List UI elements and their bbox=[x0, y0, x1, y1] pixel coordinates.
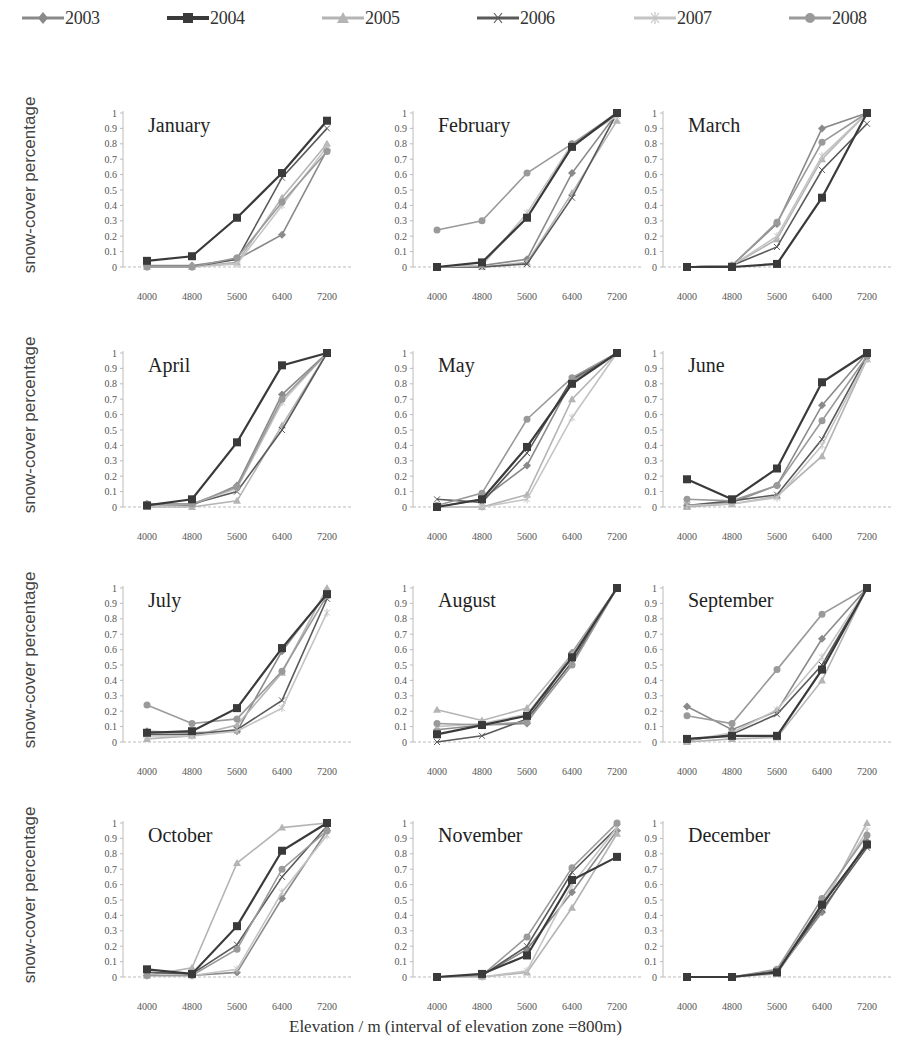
diamond-marker-icon bbox=[683, 703, 691, 711]
square-marker-icon bbox=[323, 819, 331, 827]
circle-marker-icon bbox=[434, 720, 441, 727]
y-tick-label: 1 bbox=[652, 108, 657, 119]
square-marker-icon bbox=[683, 973, 691, 981]
panel-title: February bbox=[438, 114, 510, 137]
y-tick-label: 0 bbox=[652, 737, 657, 748]
x-tick-label: 6400 bbox=[272, 291, 292, 302]
series-line-2008 bbox=[687, 113, 867, 267]
y-tick-label: 0 bbox=[652, 502, 657, 513]
x-tick-label: 4800 bbox=[472, 1001, 492, 1012]
legend-label: 2007 bbox=[677, 8, 712, 29]
y-tick-label: 0.6 bbox=[395, 879, 408, 890]
y-tick-label: 0.1 bbox=[105, 486, 118, 497]
square-marker-icon bbox=[433, 503, 441, 511]
y-tick-label: 0.5 bbox=[645, 660, 658, 671]
y-tick-label: 0.7 bbox=[645, 629, 658, 640]
circle-marker-icon bbox=[569, 864, 576, 871]
square-marker-icon bbox=[568, 653, 576, 661]
y-axis-label-row-4: snow-cover percentage bbox=[0, 780, 60, 1010]
y-tick-label: 0.2 bbox=[395, 706, 408, 717]
y-tick-label: 0.6 bbox=[105, 644, 118, 655]
series-line-2003 bbox=[687, 841, 867, 977]
y-tick-label: 0.1 bbox=[645, 246, 658, 257]
panel-title: April bbox=[148, 354, 191, 377]
legend-label: 2005 bbox=[365, 8, 400, 29]
circle-marker-icon bbox=[234, 483, 241, 490]
x-marker-icon bbox=[324, 125, 330, 131]
x-tick-label: 4000 bbox=[427, 1001, 447, 1012]
y-tick-label: 0.6 bbox=[645, 409, 658, 420]
square-marker-icon bbox=[523, 214, 531, 222]
circle-marker-icon bbox=[434, 227, 441, 234]
series-line-2006 bbox=[147, 599, 327, 735]
circle-marker-icon bbox=[234, 254, 241, 261]
square-marker-icon bbox=[523, 951, 531, 959]
x-tick-label: 6400 bbox=[272, 766, 292, 777]
legend-label: 2008 bbox=[832, 8, 867, 29]
y-tick-label: 0.3 bbox=[645, 455, 658, 466]
y-tick-label: 0.4 bbox=[395, 675, 408, 686]
triangle-marker-icon bbox=[568, 904, 576, 911]
circle-marker-icon bbox=[729, 720, 736, 727]
x-tick-label: 6400 bbox=[562, 1001, 582, 1012]
y-tick-label: 0.9 bbox=[645, 123, 658, 134]
x-tick-label: 4000 bbox=[677, 291, 697, 302]
circle-marker-icon bbox=[324, 827, 331, 834]
panel-title: May bbox=[438, 354, 475, 377]
y-tick-label: 0 bbox=[112, 972, 117, 983]
y-tick-label: 0.9 bbox=[645, 363, 658, 374]
series-line-2007 bbox=[687, 113, 867, 267]
star-marker-icon bbox=[279, 888, 285, 896]
x-tick-label: 5600 bbox=[767, 1001, 787, 1012]
y-axis-label-row-2: snow-cover percentage bbox=[0, 310, 60, 540]
y-tick-label: 0.9 bbox=[395, 363, 408, 374]
y-tick-label: 0 bbox=[112, 737, 117, 748]
chart-panel-december: 00.10.20.30.40.50.60.70.80.9140004800560… bbox=[620, 780, 900, 1015]
y-tick-label: 0.9 bbox=[395, 833, 408, 844]
x-tick-label: 5600 bbox=[227, 1001, 247, 1012]
y-tick-label: 0.3 bbox=[645, 215, 658, 226]
circle-marker-icon bbox=[324, 148, 331, 155]
series-line-2003 bbox=[147, 831, 327, 976]
circle-marker-icon bbox=[819, 139, 826, 146]
triangle-marker-icon bbox=[818, 452, 826, 459]
series-line-2007 bbox=[437, 353, 617, 507]
y-tick-label: 0.5 bbox=[645, 895, 658, 906]
triangle-marker-icon bbox=[863, 819, 871, 826]
square-marker-icon bbox=[863, 841, 871, 849]
series-line-2003 bbox=[437, 113, 617, 267]
square-marker-icon bbox=[863, 584, 871, 592]
panel-title: November bbox=[438, 824, 523, 846]
square-marker-icon bbox=[143, 729, 151, 737]
series-line-2007 bbox=[437, 116, 617, 267]
y-tick-label: 0.5 bbox=[395, 660, 408, 671]
y-axis-label-row-1: snow-cover percentage bbox=[0, 70, 60, 300]
y-tick-label: 1 bbox=[112, 818, 117, 829]
circle-marker-icon bbox=[684, 712, 691, 719]
triangle-marker-icon bbox=[322, 8, 364, 28]
diamond-marker-icon bbox=[818, 124, 826, 132]
circle-marker-icon bbox=[789, 8, 831, 28]
y-tick-label: 0.5 bbox=[105, 895, 118, 906]
y-tick-label: 0.5 bbox=[395, 425, 408, 436]
y-tick-label: 0.3 bbox=[395, 690, 408, 701]
x-tick-label: 4000 bbox=[137, 291, 157, 302]
x-tick-label: 6400 bbox=[812, 291, 832, 302]
y-tick-label: 0.4 bbox=[395, 910, 408, 921]
y-tick-label: 1 bbox=[402, 108, 407, 119]
star-marker-icon bbox=[324, 609, 330, 617]
y-tick-label: 0.8 bbox=[395, 848, 408, 859]
series-line-2005 bbox=[437, 353, 617, 507]
y-tick-label: 0.6 bbox=[645, 879, 658, 890]
triangle-marker-icon bbox=[233, 497, 241, 504]
square-marker-icon bbox=[478, 721, 486, 729]
circle-marker-icon bbox=[279, 199, 286, 206]
y-tick-label: 0.7 bbox=[105, 864, 118, 875]
square-marker-icon bbox=[773, 968, 781, 976]
square-marker-icon bbox=[523, 443, 531, 451]
square-marker-icon bbox=[818, 378, 826, 386]
series-line-2007 bbox=[147, 147, 327, 267]
y-tick-label: 1 bbox=[112, 348, 117, 359]
square-marker-icon bbox=[323, 349, 331, 357]
series-line-2005 bbox=[147, 144, 327, 267]
